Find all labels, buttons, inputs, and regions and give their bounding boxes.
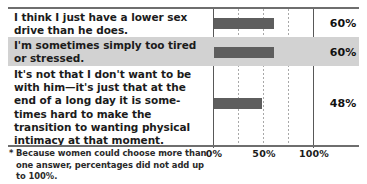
bar: [214, 47, 274, 58]
row-label: I'm sometimes simply too tired or stress…: [14, 39, 210, 65]
footnote-marker: *: [9, 148, 13, 160]
top-divider-rule: [8, 7, 359, 9]
bar: [214, 98, 262, 109]
table-row: I'm sometimes simply too tired or stress…: [8, 37, 359, 66]
x-tick-label-50: 50%: [252, 148, 275, 159]
footnote: * Because women could choose more than o…: [9, 148, 207, 183]
bottom-divider-rule: [8, 145, 359, 147]
row-label: I think I just have a lower sex drive th…: [14, 11, 210, 37]
x-tick-label-0: 0%: [206, 148, 223, 159]
table-row: It's not that I don't want to be with hi…: [8, 66, 359, 144]
footnote-text: Because women could choose more than one…: [9, 148, 207, 183]
row-label: It's not that I don't want to be with hi…: [14, 68, 210, 147]
bar-rows: I think I just have a lower sex drive th…: [8, 10, 359, 144]
x-tick-label-100: 100%: [299, 148, 329, 159]
bar: [214, 18, 274, 29]
row-value: 60%: [321, 17, 365, 30]
chart-figure: I think I just have a lower sex drive th…: [0, 0, 367, 184]
table-row: I think I just have a lower sex drive th…: [8, 10, 359, 37]
row-value: 48%: [321, 97, 365, 110]
row-value: 60%: [321, 46, 365, 59]
